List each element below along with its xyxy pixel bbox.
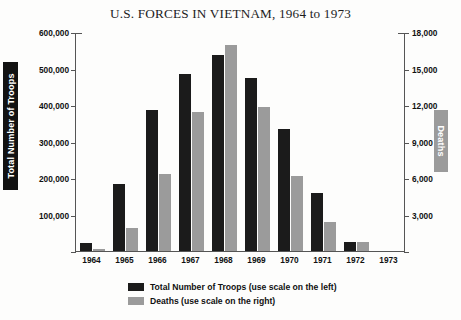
chart-container: U.S. FORCES IN VIETNAM, 1964 to 1973 Tot… [0,0,461,320]
left-axis-tick-label: 500,000 [39,65,69,75]
bar-troops [311,193,323,251]
bar-deaths [258,107,270,251]
left-axis-tick [71,106,76,107]
left-axis-tick-label: 600,000 [39,28,69,38]
bar-deaths [225,45,237,251]
left-axis-tick [71,216,76,217]
right-axis-tick-label: 6,000 [412,174,433,184]
x-axis-tick-label: 1965 [115,255,133,265]
legend-item[interactable]: Total Number of Troops (use scale on the… [128,281,337,293]
left-axis-tick [71,252,76,253]
x-axis-tick-label: 1968 [214,255,232,265]
right-axis-tick [404,252,409,253]
bar-troops [278,129,290,251]
right-axis-tick [404,143,409,144]
bar-group [377,33,402,251]
bar-deaths [126,228,138,251]
right-axis-tick [404,179,409,180]
bar-deaths [324,222,336,251]
right-axis-tick-labels: 3,0006,0009,00012,00015,00018,000 [412,33,458,252]
bar-troops [179,74,191,251]
bar-deaths [192,112,204,251]
x-axis-tick-label: 1970 [280,255,298,265]
x-axis-tick-labels: 1964196519661967196819691970197119721973 [75,255,405,271]
left-axis-tick [71,179,76,180]
bar-group [80,33,105,251]
bar-deaths [93,249,105,251]
x-axis-tick-label: 1964 [82,255,100,265]
plot-area [75,33,405,252]
bar-group [179,33,204,251]
legend-item[interactable]: Deaths (use scale on the right) [128,295,337,307]
right-axis-tick-label: 15,000 [412,65,437,75]
bar-troops [113,184,125,251]
left-axis-tick-label: 200,000 [39,174,69,184]
bar-group [113,33,138,251]
right-axis-tick [404,70,409,71]
bar-group [311,33,336,251]
bar-troops [212,55,224,251]
bar-troops [80,243,92,251]
chart-legend: Total Number of Troops (use scale on the… [128,281,337,309]
x-axis-tick-label: 1972 [346,255,364,265]
x-axis-tick-label: 1967 [181,255,199,265]
bar-group [212,33,237,251]
right-axis-tick [404,106,409,107]
right-axis-tick [404,216,409,217]
right-axis-tick-label: 9,000 [412,138,433,148]
bar-group [344,33,369,251]
x-axis-tick-label: 1971 [313,255,331,265]
left-axis-tick-label: 400,000 [39,101,69,111]
right-axis-tick-label: 3,000 [412,211,433,221]
right-axis-tick-label: 18,000 [412,28,437,38]
left-axis-tick [71,143,76,144]
chart-title: U.S. FORCES IN VIETNAM, 1964 to 1973 [0,6,461,22]
left-axis-tick [71,33,76,34]
bar-troops [245,78,257,251]
left-axis-tick-label: 100,000 [39,211,69,221]
left-axis-tick [71,70,76,71]
bars-layer [76,33,404,251]
right-axis-tick [404,33,409,34]
bar-group [146,33,171,251]
bar-group [245,33,270,251]
x-axis-tick-label: 1973 [379,255,397,265]
legend-label: Deaths (use scale on the right) [150,296,275,306]
bar-deaths [291,176,303,251]
bar-troops [146,110,158,251]
bar-deaths [357,242,369,251]
x-axis-tick-label: 1969 [247,255,265,265]
right-axis-tick-label: 12,000 [412,101,437,111]
bar-deaths [159,174,171,251]
x-axis-tick-label: 1966 [148,255,166,265]
left-axis-tick-label: 300,000 [39,138,69,148]
left-axis-tick-labels: 100,000200,000300,000400,000500,000600,0… [0,33,69,252]
bar-group [278,33,303,251]
bar-troops [344,242,356,251]
legend-label: Total Number of Troops (use scale on the… [150,282,337,292]
legend-swatch-icon [128,283,144,291]
legend-swatch-icon [128,297,144,305]
